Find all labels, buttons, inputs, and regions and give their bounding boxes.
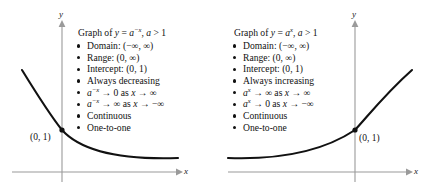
panel-decreasing-exponential: y x (0, 1) Graph of y = a−x, a > 1 Domai…: [0, 0, 215, 193]
info-block-left: Graph of y = a−x, a > 1 Domain: (−∞, ∞) …: [76, 28, 166, 134]
bullet-dot-icon: [77, 56, 80, 59]
y-axis-arrowhead-right: [352, 20, 359, 27]
list-item-label: → 0 as: [251, 98, 283, 109]
list-item: Intercept: (0, 1): [232, 64, 318, 74]
list-item-label: Always decreasing: [87, 75, 160, 86]
list-item: ax → ∞ as x → ∞: [232, 88, 318, 98]
list-item-label: Always increasing: [243, 75, 314, 86]
list-item: Range: (0, ∞): [232, 53, 318, 63]
title-equals-left: =: [119, 27, 129, 38]
bullet-dot-icon: [233, 44, 236, 47]
list-item-tail: → −∞: [287, 98, 314, 109]
bullet-dot-icon: [233, 103, 236, 106]
y-axis-label-right: y: [352, 10, 356, 19]
list-item: Always decreasing: [76, 76, 166, 86]
bullet-dot-icon: [77, 126, 80, 129]
x-axis-arrowhead-left: [176, 169, 183, 176]
list-item-label: → ∞ as: [99, 98, 133, 109]
list-item: Domain: (−∞, ∞): [76, 41, 166, 51]
list-item-tail: → ∞: [289, 87, 310, 98]
list-item-label: → ∞ as: [251, 87, 285, 98]
list-item-label: → 0 as: [99, 87, 131, 98]
list-item-label: Range: (0, ∞): [243, 52, 295, 63]
list-item-label: Continuous: [87, 110, 131, 121]
list-item-label: Intercept: (0, 1): [243, 63, 303, 74]
title-prefix-right: Graph of: [234, 27, 271, 38]
bullet-dot-icon: [233, 68, 236, 71]
bullet-dot-icon: [77, 68, 80, 71]
property-list-right: Domain: (−∞, ∞) Range: (0, ∞) Intercept:…: [232, 41, 318, 132]
property-list-left: Domain: (−∞, ∞) Range: (0, ∞) Intercept:…: [76, 41, 166, 132]
list-item: One-to-one: [76, 123, 166, 133]
list-item-label: Continuous: [243, 110, 287, 121]
bullet-dot-icon: [77, 114, 80, 117]
x-axis-label-right: x: [414, 167, 418, 176]
list-item: Continuous: [76, 111, 166, 121]
list-item: Continuous: [232, 111, 318, 121]
bullet-dot-icon: [77, 79, 80, 82]
list-item-label: Domain: (−∞, ∞): [243, 40, 309, 51]
info-block-right: Graph of y = ax, a > 1 Domain: (−∞, ∞) R…: [232, 28, 318, 134]
x-axis-label-left: x: [184, 167, 188, 176]
intercept-label-right: (0, 1): [359, 134, 380, 144]
panel-title-left: Graph of y = a−x, a > 1: [76, 28, 166, 38]
list-item: Always increasing: [232, 76, 318, 86]
panel-title-right: Graph of y = ax, a > 1: [232, 28, 318, 38]
x-axis-arrowhead-right: [406, 169, 413, 176]
intercept-point-left: [59, 127, 64, 132]
list-item: Intercept: (0, 1): [76, 64, 166, 74]
list-item-label: Intercept: (0, 1): [87, 63, 147, 74]
bullet-dot-icon: [233, 91, 236, 94]
bullet-dot-icon: [77, 44, 80, 47]
list-item: ax → 0 as x → −∞: [232, 99, 318, 109]
bullet-dot-icon: [233, 56, 236, 59]
bullet-dot-icon: [77, 91, 80, 94]
list-item: Domain: (−∞, ∞): [232, 41, 318, 51]
list-item: Range: (0, ∞): [76, 53, 166, 63]
list-item: One-to-one: [232, 123, 318, 133]
title-condition-left: > 1: [151, 27, 166, 38]
bullet-dot-icon: [77, 103, 80, 106]
bullet-dot-icon: [233, 114, 236, 117]
list-item-tail: → −∞: [137, 98, 164, 109]
list-item-tail: → ∞: [135, 87, 156, 98]
y-axis-label-left: y: [59, 10, 63, 19]
y-axis-arrowhead-left: [59, 20, 66, 27]
list-item: a−x → 0 as x → ∞: [76, 88, 166, 98]
title-equals-right: =: [275, 27, 285, 38]
intercept-point-right: [352, 127, 357, 132]
list-item-label: Domain: (−∞, ∞): [87, 40, 153, 51]
panel-increasing-exponential: y x (0, 1) Graph of y = ax, a > 1 Domain…: [215, 0, 430, 193]
title-prefix-left: Graph of: [78, 27, 115, 38]
list-item-label: Range: (0, ∞): [87, 52, 139, 63]
bullet-dot-icon: [233, 79, 236, 82]
exponential-functions-figure: y x (0, 1) Graph of y = a−x, a > 1 Domai…: [0, 0, 430, 193]
title-condition-right: > 1: [303, 27, 318, 38]
bullet-dot-icon: [233, 126, 236, 129]
list-item-label: One-to-one: [87, 122, 131, 133]
intercept-label-left: (0, 1): [30, 133, 51, 143]
list-item: a−x → ∞ as x → −∞: [76, 99, 166, 109]
list-item-label: One-to-one: [243, 122, 287, 133]
